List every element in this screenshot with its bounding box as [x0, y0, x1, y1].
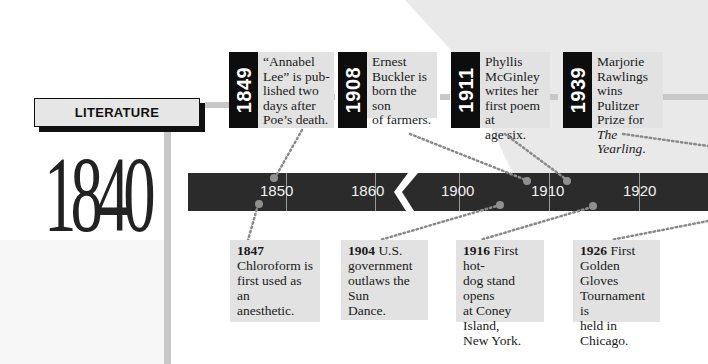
tick-label: 1900: [441, 182, 474, 199]
literature-event-card: 1939 Marjorie Rawlings wins Pulitzer Pri…: [563, 52, 663, 128]
card-connector: [550, 94, 558, 100]
year-tab: 1908: [338, 52, 367, 128]
world-event-card: 1904 U.S. government outlaws the Sun Dan…: [341, 240, 428, 320]
literature-event-card: 1908 Ernest Buckler is born the son of f…: [338, 52, 437, 128]
literature-event-card: 1911 Phyllis McGinley writes her first p…: [451, 52, 550, 128]
year-tab: 1849: [229, 52, 258, 128]
year-tab: 1911: [451, 52, 480, 128]
tick-label: 1910: [531, 182, 564, 199]
event-text: Ernest Buckler is born the son of farmer…: [367, 52, 437, 118]
event-text: Marjorie Rawlings wins Pulitzer Prize fo…: [592, 52, 663, 128]
decade-year: 1840: [44, 140, 117, 260]
literature-event-card: 1849 “Annabel Lee” is pub- lished two da…: [229, 52, 334, 128]
world-event-card: 1926 First Golden Gloves Tournament is h…: [573, 240, 660, 322]
vertical-rule: [164, 132, 171, 364]
label-connector: [205, 102, 229, 108]
event-text: “Annabel Lee” is pub- lished two days af…: [258, 52, 334, 128]
tick-label: 1860: [351, 182, 384, 199]
section-label: LITERATURE: [34, 98, 200, 127]
event-text: Phyllis McGinley writes her first poem a…: [480, 52, 550, 128]
tick-label: 1920: [623, 182, 656, 199]
world-event-card: 1847 Chloroform is first used as an anes…: [230, 240, 320, 322]
tick-label: 1850: [260, 182, 293, 199]
card-connector: [440, 94, 450, 100]
year-tab: 1939: [563, 52, 592, 128]
world-event-card: 1916 First hot- dog stand opens at Coney…: [456, 240, 544, 322]
card-connector: [662, 94, 708, 100]
section-label-text: LITERATURE: [75, 105, 159, 120]
